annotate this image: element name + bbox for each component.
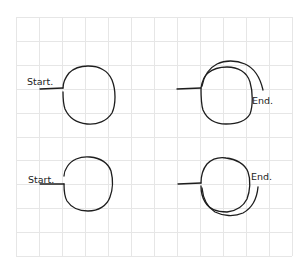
grid bbox=[16, 17, 293, 257]
start-label: Start. bbox=[27, 76, 53, 87]
diagram-canvas: Start. End. Start. End. bbox=[0, 0, 304, 266]
loop-curve bbox=[64, 157, 112, 211]
end-label: End. bbox=[252, 95, 273, 106]
end-label: End. bbox=[251, 171, 272, 182]
lead-in-line bbox=[178, 183, 201, 184]
lead-in-line bbox=[177, 88, 201, 89]
figure-top-right: End. bbox=[177, 61, 273, 124]
figure-bottom-left: Start. bbox=[28, 157, 112, 211]
loop-curve bbox=[201, 67, 252, 124]
lead-in-line bbox=[40, 88, 63, 89]
figure-bottom-right: End. bbox=[178, 158, 272, 216]
figure-top-left: Start. bbox=[27, 66, 115, 124]
loop-curve bbox=[63, 66, 115, 124]
